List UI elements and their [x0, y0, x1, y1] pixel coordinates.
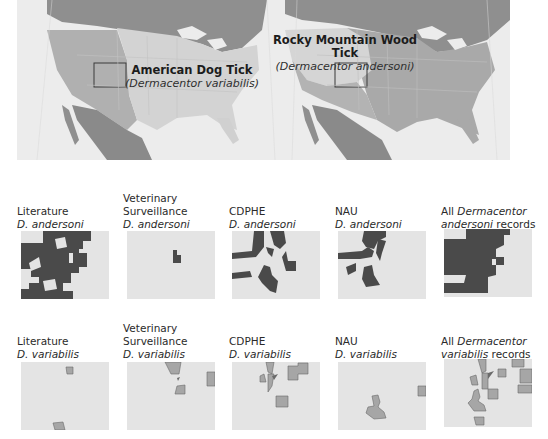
american-dog-tick-scientific-name: (Dermacentor variabilis)	[122, 77, 262, 90]
label-line: CDPHE	[229, 205, 329, 218]
label-line: Veterinary	[123, 322, 223, 335]
county-map-graphic	[232, 231, 320, 299]
county-map-graphic	[232, 362, 320, 430]
panel-label-all-andersoni: All Dermacentor andersoni records	[441, 205, 541, 231]
label-line: Surveillance	[123, 205, 223, 218]
colorado-map-vet-variabilis	[127, 362, 215, 430]
label-species: D. variabilis	[335, 348, 397, 360]
rocky-mountain-wood-tick-label: Rocky Mountain Wood Tick (Dermacentor an…	[270, 34, 420, 73]
label-species: D. andersoni	[123, 218, 190, 230]
colorado-map-vet-andersoni	[127, 231, 215, 299]
colorado-map-nau-variabilis	[338, 362, 426, 430]
colorado-map-literature-variabilis	[21, 362, 109, 430]
label-line: Surveillance	[123, 335, 223, 348]
panel-label-cdphe-variabilis: CDPHE D. variabilis	[229, 335, 329, 361]
panel-label-nau-variabilis: NAU D. variabilis	[335, 335, 435, 361]
panel-label-vet-variabilis: Veterinary Surveillance D. variabilis	[123, 322, 223, 361]
label-line: All	[441, 205, 457, 217]
label-genus: Dermacentor	[457, 335, 526, 347]
label-line: NAU	[335, 205, 435, 218]
label-line: Literature	[17, 335, 117, 348]
label-line: Literature	[17, 205, 117, 218]
panel-label-nau-andersoni: NAU D. andersoni	[335, 205, 435, 231]
colorado-map-all-andersoni	[444, 229, 532, 297]
american-dog-tick-common-name: American Dog Tick	[122, 64, 262, 77]
label-species: D. variabilis	[17, 348, 79, 360]
county-map-graphic	[338, 362, 426, 430]
county-map-graphic	[127, 362, 215, 430]
panel-label-vet-andersoni: Veterinary Surveillance D. andersoni	[123, 192, 223, 231]
rocky-mountain-wood-tick-scientific-name: (Dermacentor andersoni)	[270, 60, 420, 73]
north-america-maps-graphic	[17, 0, 510, 160]
label-species: D. andersoni	[229, 218, 296, 230]
county-map-graphic	[444, 229, 532, 297]
panel-label-literature-variabilis: Literature D. variabilis	[17, 335, 117, 361]
colorado-map-nau-andersoni	[338, 231, 426, 299]
label-line: All	[441, 335, 457, 347]
panel-label-cdphe-andersoni: CDPHE D. andersoni	[229, 205, 329, 231]
panel-label-literature-andersoni: Literature D. andersoni	[17, 205, 117, 231]
county-map-graphic	[338, 231, 426, 299]
label-line: CDPHE	[229, 335, 329, 348]
label-species: D. variabilis	[229, 348, 291, 360]
label-species: D. variabilis	[123, 348, 185, 360]
colorado-map-all-variabilis	[444, 359, 532, 427]
county-map-graphic	[21, 362, 109, 430]
panel-label-all-variabilis: All Dermacentor variabilis records	[441, 335, 541, 361]
county-map-graphic	[444, 359, 532, 427]
county-map-graphic	[127, 231, 215, 299]
range-maps	[17, 0, 510, 160]
colorado-map-literature-andersoni	[21, 231, 109, 299]
county-map-graphic	[21, 231, 109, 299]
label-species: D. andersoni	[17, 218, 84, 230]
label-line: NAU	[335, 335, 435, 348]
label-species: D. andersoni	[335, 218, 402, 230]
rocky-mountain-wood-tick-common-name: Rocky Mountain Wood Tick	[270, 34, 420, 60]
colorado-map-cdphe-andersoni	[232, 231, 320, 299]
label-line: Veterinary	[123, 192, 223, 205]
american-dog-tick-label: American Dog Tick (Dermacentor variabili…	[122, 64, 262, 90]
colorado-map-cdphe-variabilis	[232, 362, 320, 430]
label-genus: Dermacentor	[457, 205, 526, 217]
